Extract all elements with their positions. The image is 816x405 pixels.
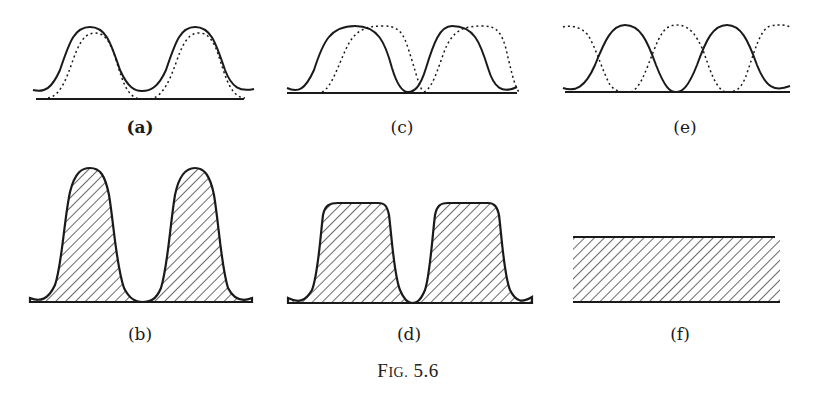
figure-canvas [0, 0, 816, 405]
solid-pulse-curve [287, 26, 517, 92]
panel-d [288, 203, 532, 303]
panel-c [287, 26, 519, 93]
caption-smallcaps: IG. [388, 365, 408, 380]
panel-f [573, 237, 780, 302]
solid-pulse-curve [563, 25, 790, 92]
panel-label-b: (b) [128, 324, 152, 344]
panel-a [33, 27, 254, 99]
panel-b [30, 168, 252, 302]
solid-pulse-curve [33, 27, 254, 91]
hatched-pulse-shape [30, 168, 252, 302]
panel-label-e: (e) [673, 117, 696, 137]
panel-label-a: (a) [126, 117, 153, 137]
panel-label-c: (c) [391, 117, 414, 137]
panel-e [563, 25, 790, 92]
hatched-band [573, 237, 780, 302]
figure-caption: FIG. 5.6 [377, 360, 438, 382]
panel-label-d: (d) [397, 324, 421, 344]
caption-number: 5.6 [413, 360, 438, 381]
hatched-pulse-shape [288, 203, 532, 303]
panel-label-f: (f) [670, 324, 690, 344]
caption-prefix: F [377, 360, 388, 381]
